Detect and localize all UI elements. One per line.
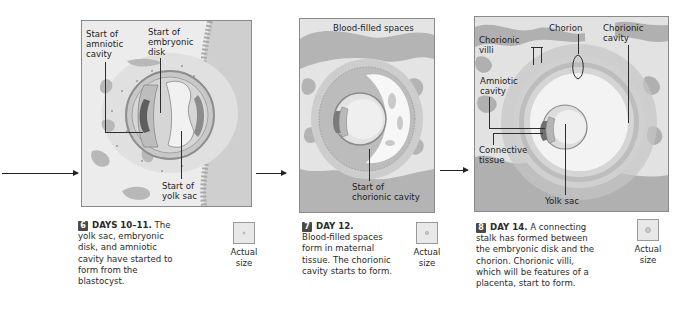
label-yolk-sac: Yolk sac [545,196,579,206]
actual-size-indicator: Actual size [409,222,445,269]
leader-line [489,128,545,129]
incoming-arrow [2,173,78,174]
label-blood-filled-spaces: Blood-filled spaces [333,23,414,33]
label-chorion: Chorion [549,23,582,33]
leader-line [489,97,490,129]
day-heading: DAYS 10–11. [92,220,152,230]
leader-line [181,131,182,179]
label-connective-tissue: Connective tissue [479,145,527,165]
label-start-of-chorionic-cavity: Start of chorionic cavity [352,182,420,202]
actual-size-box [233,222,255,244]
caption-days-10-11: 6DAYS 10–11. The yolk sac, embryonic dis… [78,220,198,287]
label-start-of-embryonic-disk: Start of embryonic disk [148,27,194,57]
leader-line [578,34,579,54]
step-number-badge: 7 [302,222,312,232]
day-heading: DAY 14. [490,222,527,232]
actual-size-box [637,219,659,241]
actual-size-box [416,222,438,244]
leader-line [541,47,542,63]
leader-line [493,133,543,134]
leader-line [160,58,161,113]
label-amniotic-cavity: Amniotic cavity [480,76,518,96]
leader-line [369,149,370,181]
leader-line [533,47,534,65]
label-chorionic-villi: Chorionic villi [479,35,519,55]
leader-line [493,133,494,145]
leader-line [105,132,143,133]
panel-day-12: Blood-filled spaces Start of chorionic c… [299,18,435,213]
caption-day-14: 8DAY 14. A connecting stalk has formed b… [476,222,616,289]
leader-line [628,45,629,123]
actual-size-indicator: Actual size [628,219,668,266]
panel-day-14: Chorion Chorionic cavity Chorionic villi… [474,16,669,212]
step-number-badge: 6 [78,221,88,231]
arrow-to-day-14 [440,170,468,171]
arrow-to-day-12 [256,173,286,174]
label-start-of-yolk-sac: Start of yolk sac [162,181,197,201]
step-number-badge: 8 [476,223,486,233]
day-heading: DAY 12. [316,221,353,231]
label-start-of-amniotic-cavity: Start of amniotic cavity [86,29,123,59]
actual-size-indicator: Actual size [226,222,262,269]
leader-line [105,62,106,133]
leader-line [565,124,566,195]
panel-days-10-11: Start of amniotic cavity Start of embryo… [81,20,252,207]
label-chorionic-cavity: Chorionic cavity [603,23,643,43]
caption-day-12: 7DAY 12. Blood-filled spaces form in mat… [302,221,412,277]
